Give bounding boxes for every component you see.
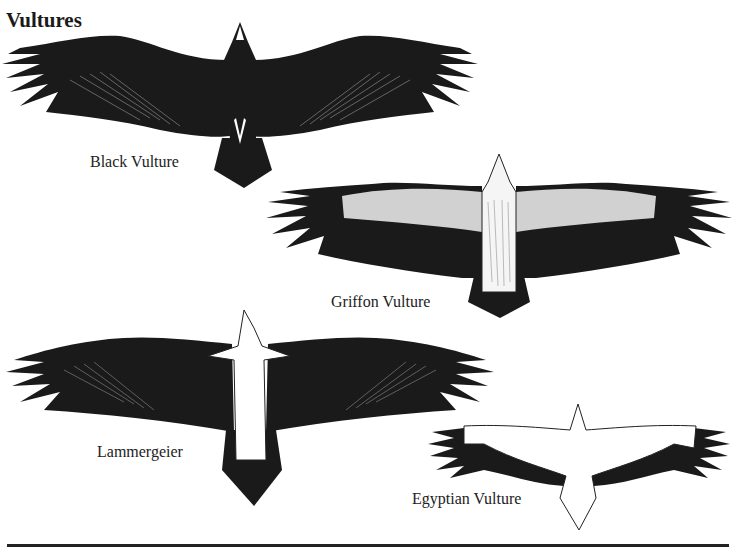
egyptian-vulture-illustration [424,404,736,532]
caption-egyptian-vulture: Egyptian Vulture [412,490,521,508]
caption-griffon-vulture: Griffon Vulture [331,293,430,311]
caption-black-vulture: Black Vulture [90,153,179,171]
caption-lammergeier: Lammergeier [97,443,183,461]
bottom-rule [7,544,729,547]
